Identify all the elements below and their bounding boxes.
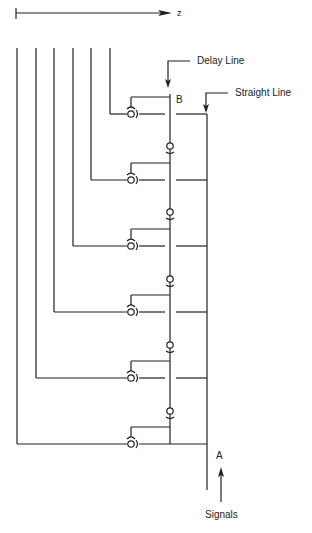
coupler-stage bbox=[17, 48, 207, 448]
delay-line-label: Delay Line bbox=[197, 55, 245, 66]
coupler-bracket-icon bbox=[136, 374, 138, 382]
coupler-arc-icon bbox=[127, 239, 135, 241]
coupler-stage bbox=[91, 48, 207, 184]
delay-coupler-icon bbox=[167, 209, 173, 215]
coupler-bracket-icon bbox=[136, 176, 138, 184]
straight-line-callout: Straight Line bbox=[203, 87, 292, 113]
coupler-icon bbox=[128, 243, 134, 249]
coupler-arc-icon bbox=[127, 305, 135, 307]
coupler-icon bbox=[128, 309, 134, 315]
stages bbox=[17, 48, 207, 448]
signals-label: Signals bbox=[205, 509, 238, 520]
delay-line-callout: Delay Line bbox=[165, 55, 245, 88]
straight-line-label: Straight Line bbox=[235, 87, 292, 98]
z-axis-label: z bbox=[177, 8, 182, 18]
coupler-stage bbox=[73, 48, 207, 250]
coupler-arc-icon bbox=[127, 107, 135, 109]
coupler-bracket-icon bbox=[136, 110, 138, 118]
z-axis: z bbox=[16, 8, 182, 19]
delay-coupler-icon bbox=[167, 408, 173, 414]
coupler-stage bbox=[110, 48, 207, 118]
coupler-icon bbox=[128, 177, 134, 183]
signals-arrow bbox=[218, 467, 224, 502]
coupler-arc-icon bbox=[127, 437, 135, 439]
coupler-arc-icon bbox=[127, 173, 135, 175]
coupler-icon bbox=[128, 441, 134, 447]
node-a-label: A bbox=[216, 450, 223, 461]
node-b-label: B bbox=[176, 94, 183, 105]
delay-coupler-icon bbox=[167, 143, 173, 149]
delay-line-diagram: z Delay Line Straight Line B A Signals bbox=[0, 0, 312, 533]
coupler-arc-icon bbox=[127, 371, 135, 373]
delay-coupler-icon bbox=[167, 276, 173, 282]
coupler-bracket-icon bbox=[136, 440, 138, 448]
coupler-icon bbox=[128, 375, 134, 381]
delay-coupler-icon bbox=[167, 342, 173, 348]
coupler-bracket-icon bbox=[136, 242, 138, 250]
coupler-icon bbox=[128, 111, 134, 117]
coupler-bracket-icon bbox=[136, 308, 138, 316]
